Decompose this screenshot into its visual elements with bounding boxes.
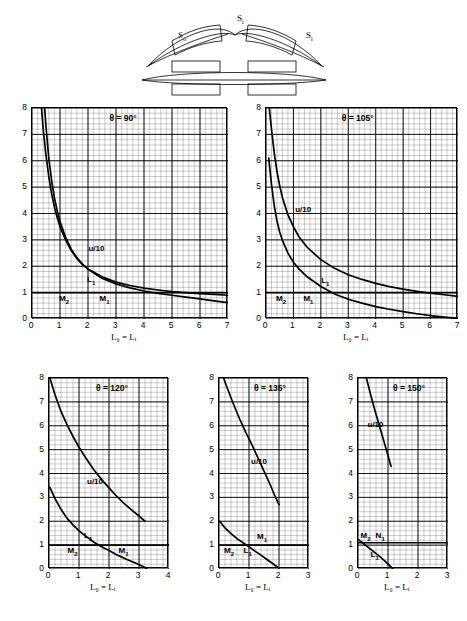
y-tick-label: 1 [341,539,353,549]
y-tick-label: 7 [341,396,353,406]
x-axis-title: L₀ = Lᵢ [384,582,409,592]
plot-title: θ = 150° [393,383,425,393]
y-tick-label: 6 [341,420,353,430]
plot-canvas-theta-150 [358,378,448,569]
y-tick-label: 4 [341,468,353,478]
chart-panel-theta-150: 0123456780123L₀ = Lᵢθ = 150°u/10M2N1L1 [0,0,467,621]
curve-annotation: L1 [371,550,379,561]
y-tick-label: 8 [341,372,353,382]
y-tick-label: 3 [341,491,353,501]
x-tick-label: 1 [381,570,393,580]
y-tick-label: 2 [341,515,353,525]
y-tick-label: 5 [341,444,353,454]
x-tick-label: 0 [351,570,363,580]
figure-page: So Si Si 01234567801234567L₀ = Lᵢθ = 90°… [0,0,467,621]
curve-annotation: u/10 [368,420,384,429]
x-tick-label: 2 [411,570,423,580]
x-tick-label: 3 [441,570,453,580]
curve-annotation: N1 [376,531,385,542]
curve-annotation: M2 [361,531,371,542]
